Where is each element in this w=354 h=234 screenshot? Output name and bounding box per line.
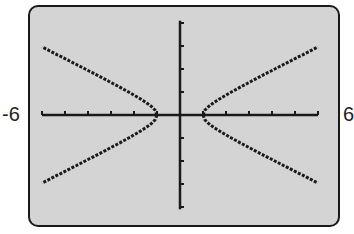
hyperbola-branch [42, 115, 157, 183]
hyperbola-branch [203, 47, 318, 115]
hyperbola-branch [42, 47, 157, 115]
hyperbola-plot [0, 0, 354, 234]
hyperbola-branch [203, 115, 318, 183]
xmax-label: 6 [343, 103, 354, 126]
xmin-label: -6 [2, 103, 20, 126]
